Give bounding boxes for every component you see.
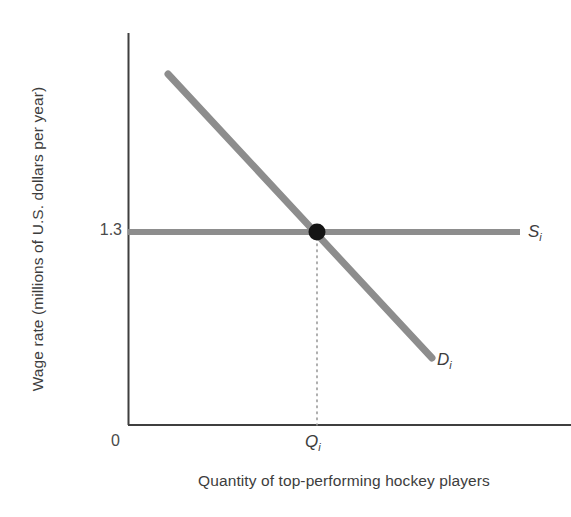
y-tick-label-1-3: 1.3 xyxy=(78,221,122,239)
supply-curve-subscript: i xyxy=(539,231,541,243)
demand-curve-label: Di xyxy=(437,350,452,371)
equilibrium-point xyxy=(309,224,326,241)
demand-curve-letter: D xyxy=(437,350,449,369)
demand-curve xyxy=(168,74,432,358)
y-axis-title: Wage rate (millions of U.S. dollars per … xyxy=(29,44,47,434)
supply-curve-label: Si xyxy=(528,222,542,243)
origin-label: 0 xyxy=(96,432,120,450)
supply-demand-chart: Wage rate (millions of U.S. dollars per … xyxy=(0,0,571,517)
x-axis-title: Quantity of top-performing hockey player… xyxy=(128,472,560,490)
equilibrium-quantity-label: Qi xyxy=(305,432,321,453)
quantity-subscript: i xyxy=(318,441,320,453)
supply-curve-letter: S xyxy=(528,222,539,241)
quantity-letter: Q xyxy=(305,432,318,451)
chart-canvas xyxy=(0,0,571,517)
demand-curve-subscript: i xyxy=(449,359,451,371)
